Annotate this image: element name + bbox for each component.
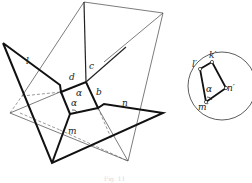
label-l-prime: l′ <box>192 59 197 69</box>
inset-quad <box>200 62 226 102</box>
label-m-prime: m′ <box>198 102 209 112</box>
label-l: l <box>26 56 29 66</box>
label-b: b <box>96 87 102 97</box>
label-inset-alpha: α <box>206 84 212 94</box>
figure-caption: Fig. 11 <box>104 175 125 183</box>
label-c: c <box>89 61 94 71</box>
diagram-canvas: l c d b α α n m l′ k′ n′ m′ α Fig. 11 <box>0 0 252 183</box>
label-m: m <box>68 126 77 136</box>
label-d: d <box>69 72 75 82</box>
label-alpha-angle: α <box>71 98 77 108</box>
label-k-prime: k′ <box>209 50 217 60</box>
label-n: n <box>122 98 128 108</box>
label-n-prime: n′ <box>227 83 235 93</box>
label-alpha-face: α <box>76 88 82 98</box>
